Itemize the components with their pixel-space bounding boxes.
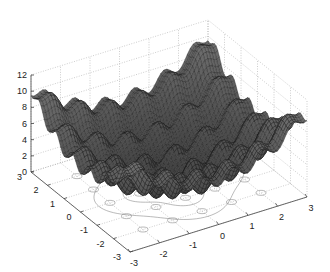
y-tick-label: 1 [50, 199, 55, 209]
z-tick-label: 4 [22, 135, 27, 145]
surface-plot: 024681012 -3-2-10123 -3-2-10123 [0, 0, 330, 272]
z-tick-label: 8 [22, 102, 27, 112]
z-tick-label: 12 [17, 70, 27, 80]
x-axis-ticks: -3-2-10123 [128, 194, 314, 268]
x-tick-label: 3 [308, 203, 313, 213]
y-tick-label: 0 [66, 212, 71, 222]
x-tick-label: -1 [189, 240, 197, 250]
y-tick-label: -3 [113, 252, 121, 262]
z-axis-ticks: 024681012 [17, 70, 34, 177]
x-tick-label: 1 [249, 221, 254, 231]
chart-figure: 024681012 -3-2-10123 -3-2-10123 [0, 0, 330, 272]
y-tick-label: -2 [96, 239, 104, 249]
z-tick-label: 6 [22, 119, 27, 129]
z-tick-label: 0 [22, 167, 27, 177]
x-tick-label: -3 [130, 258, 138, 268]
y-tick-label: -1 [80, 225, 88, 235]
z-tick-label: 2 [22, 151, 27, 161]
y-tick-label: 2 [33, 185, 38, 195]
x-tick-label: 2 [279, 212, 284, 222]
y-tick-label: 3 [17, 172, 22, 182]
x-tick-label: -2 [159, 249, 167, 259]
x-tick-label: 0 [220, 231, 225, 241]
z-tick-label: 10 [17, 86, 27, 96]
